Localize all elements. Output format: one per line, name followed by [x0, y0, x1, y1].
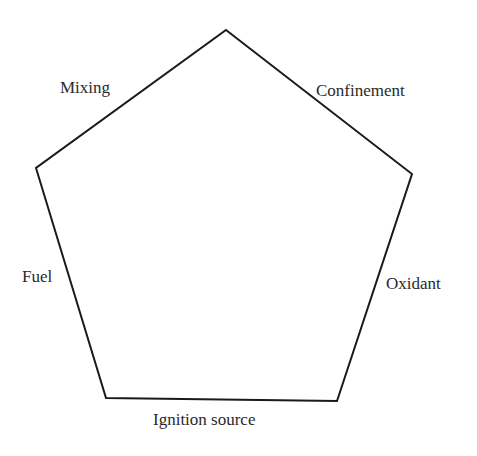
- label-mixing: Mixing: [60, 79, 110, 96]
- label-fuel: Fuel: [22, 268, 52, 285]
- label-ignition-source: Ignition source: [153, 411, 255, 428]
- label-oxidant: Oxidant: [386, 275, 441, 292]
- label-confinement: Confinement: [316, 82, 405, 99]
- pentagon-diagram: [0, 0, 477, 456]
